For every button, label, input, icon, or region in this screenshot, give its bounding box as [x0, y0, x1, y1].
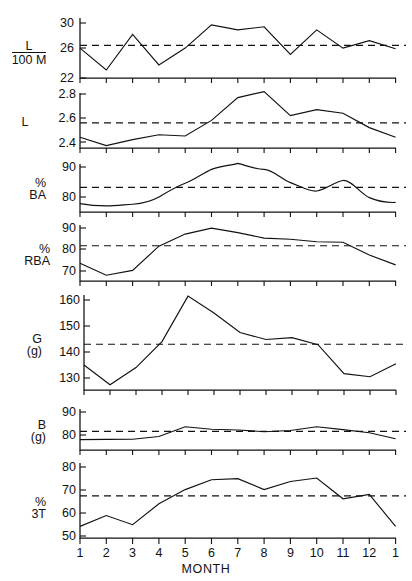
ylabel-line-2: (g)	[6, 345, 42, 357]
ytick-label: 80	[62, 428, 76, 442]
panel-l-per-100m-ylabel: L 100 M	[0, 40, 58, 66]
fraction-group: L 100 M	[12, 40, 47, 66]
x-tick-marks	[80, 450, 396, 455]
y-tick-marks	[80, 94, 86, 142]
panel-g-plot: 160 150 140 130	[58, 290, 412, 400]
x-tick-marks	[84, 390, 396, 395]
data-series-line	[80, 427, 396, 440]
panel-percent-rba-plot: 90 80 70	[58, 220, 412, 290]
panel-percent-rba: % RBA 90 80 70	[0, 220, 412, 290]
panel-l-per-100m-plot: 30 26 22	[58, 14, 412, 92]
ytick-label: 90	[62, 405, 76, 419]
axis-lines	[80, 463, 396, 538]
axis-lines	[80, 93, 396, 148]
y-tick-marks	[80, 167, 86, 197]
ytick-label: 80	[62, 190, 76, 204]
x-tick-marks	[80, 148, 396, 153]
panel-g: G (g) 160 150 140 130	[0, 290, 412, 400]
xtick-label: 10	[310, 546, 324, 558]
ytick-label: 90	[62, 221, 76, 235]
ytick-label: 80	[62, 460, 76, 474]
ytick-label: 2.8	[59, 87, 76, 101]
x-tick-marks	[80, 78, 396, 83]
panel-g-label-holder: G (g)	[0, 290, 58, 400]
panel-g-ylabel: G (g)	[6, 333, 42, 357]
xtick-label: 4	[155, 546, 162, 558]
ylabel-line-2: (g)	[4, 431, 46, 443]
ytick-label: 50	[62, 529, 76, 543]
xtick-label: 5	[182, 546, 189, 558]
data-series-line	[80, 478, 396, 526]
xtick-label: 8	[261, 546, 268, 558]
x-tick-marks	[80, 281, 396, 286]
ylabel-line-2: RBA	[0, 255, 50, 267]
panel-percent-ba: % BA 90 80	[0, 158, 412, 220]
panel-l-ylabel: L	[10, 116, 40, 128]
axis-lines	[80, 225, 396, 281]
panel-l-plot: 2.8 2.6 2.4	[58, 86, 412, 158]
fraction-numerator: L	[12, 40, 47, 53]
xtick-label: 1	[392, 546, 399, 558]
ytick-label: 2.6	[59, 111, 76, 125]
xtick-label: 3	[129, 546, 136, 558]
panel-percent-ba-label-holder: % BA	[0, 158, 58, 220]
panel-b-ylabel: B (g)	[4, 419, 46, 443]
panel-percent-ba-plot: 90 80	[58, 158, 412, 220]
ytick-label: 140	[59, 345, 80, 359]
data-series-line	[80, 92, 396, 146]
panel-percent-3t-label-holder: % 3T	[0, 458, 58, 558]
ytick-label: 70	[62, 483, 76, 497]
panel-b: B (g) 90 80	[0, 404, 412, 458]
ytick-label: 90	[62, 160, 76, 174]
axis-lines	[84, 295, 396, 390]
xtick-label: 6	[208, 546, 215, 558]
panel-b-label-holder: B (g)	[0, 404, 58, 458]
panel-percent-ba-ylabel: % BA	[4, 177, 46, 201]
ytick-label: 30	[60, 16, 74, 30]
panel-percent-rba-label-holder: % RBA	[0, 220, 58, 290]
panel-percent-3t-plot: 80 70 60 50	[58, 458, 412, 558]
panel-percent-rba-ylabel: % RBA	[0, 243, 50, 267]
x-tick-marks	[80, 538, 396, 544]
ytick-label: 70	[62, 264, 76, 278]
ytick-label: 26	[60, 41, 74, 55]
panel-l-label-holder: L	[0, 86, 58, 158]
data-series-line	[80, 25, 396, 70]
ylabel-line-2: 3T	[4, 508, 46, 520]
x-tick-labels: 1 2 3 4 5 6 7 8 9 10 11 12 1	[77, 546, 400, 558]
ytick-label: 60	[62, 506, 76, 520]
xtick-label: 12	[362, 546, 376, 558]
ytick-label: 80	[62, 242, 76, 256]
xtick-label: 1	[77, 546, 84, 558]
data-series-line	[84, 296, 396, 385]
ytick-label: 130	[59, 371, 80, 385]
figure-title	[0, 0, 412, 5]
panel-l-per-100m: L 100 M 30 26 22	[0, 14, 412, 92]
panel-percent-3t-ylabel: % 3T	[4, 496, 46, 520]
xtick-label: 9	[287, 546, 294, 558]
ytick-label: 22	[60, 71, 74, 85]
ytick-label: 160	[59, 293, 80, 307]
data-series-line	[80, 228, 396, 275]
xtick-label: 11	[337, 546, 350, 558]
ytick-label: 150	[59, 319, 80, 333]
ylabel-line-2: BA	[4, 189, 46, 201]
x-tick-marks	[80, 212, 396, 217]
panel-b-plot: 90 80	[58, 404, 412, 458]
axis-lines	[80, 18, 396, 78]
x-axis-title: MONTH	[0, 562, 412, 576]
figure-container: L 100 M 30 26 22	[0, 0, 412, 581]
xtick-label: 2	[103, 546, 110, 558]
panel-percent-3t: % 3T 80 70 60 50	[0, 458, 412, 558]
data-series-line	[80, 163, 396, 205]
panel-l-per-100m-label-holder: L 100 M	[0, 14, 58, 92]
ytick-label: 2.4	[59, 136, 76, 150]
xtick-label: 7	[234, 546, 241, 558]
fraction-denominator: 100 M	[12, 53, 47, 66]
panel-l: L 2.8 2.6 2.4	[0, 86, 412, 158]
